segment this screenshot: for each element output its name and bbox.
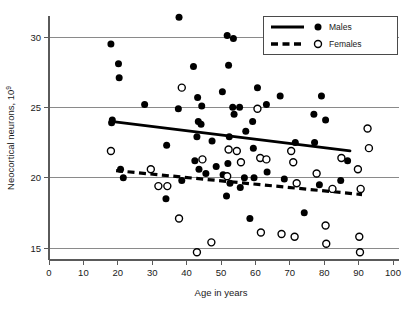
- x-tick-label: 80: [319, 267, 330, 278]
- data-point: [313, 170, 320, 177]
- x-tick-label: 50: [216, 267, 227, 278]
- data-point: [301, 209, 308, 216]
- x-tick-label: 100: [385, 267, 401, 278]
- data-point: [226, 133, 233, 140]
- data-point: [164, 183, 171, 190]
- data-point: [322, 116, 329, 123]
- data-point: [323, 240, 330, 247]
- data-point: [176, 215, 183, 222]
- data-point: [337, 177, 344, 184]
- data-point: [175, 105, 182, 112]
- data-point: [291, 233, 298, 240]
- data-point: [230, 35, 237, 42]
- data-point: [264, 169, 271, 176]
- x-tick-label: 30: [147, 267, 158, 278]
- data-point: [224, 173, 231, 180]
- legend-marker-males: [315, 24, 322, 31]
- data-point: [194, 94, 201, 101]
- data-point: [199, 156, 206, 163]
- x-tick-label: 10: [78, 267, 89, 278]
- x-tick-label: 40: [181, 267, 192, 278]
- data-point: [223, 192, 230, 199]
- data-point: [193, 133, 200, 140]
- data-point: [365, 145, 372, 152]
- x-axis-title: Age in years: [195, 287, 248, 298]
- data-point: [364, 125, 371, 132]
- scatter-plot: 010203040506070809010015202530Age in yea…: [0, 0, 413, 311]
- data-point: [311, 139, 318, 146]
- data-point: [231, 111, 238, 118]
- data-point: [115, 60, 122, 67]
- data-point: [176, 14, 183, 21]
- data-point: [251, 174, 258, 181]
- data-point: [141, 101, 148, 108]
- data-point: [107, 41, 114, 48]
- x-tick-label: 90: [353, 267, 364, 278]
- data-point: [163, 142, 170, 149]
- data-point: [278, 230, 285, 237]
- data-point: [225, 62, 232, 69]
- data-point: [281, 176, 288, 183]
- data-point: [329, 185, 336, 192]
- data-point: [190, 63, 197, 70]
- y-tick-label: 25: [30, 102, 41, 113]
- y-axis-title-text: Neocortical neurons, 10: [5, 90, 16, 190]
- data-point: [288, 147, 295, 154]
- data-point: [242, 128, 249, 135]
- x-tick-label: 70: [285, 267, 296, 278]
- y-tick-label: 30: [30, 32, 41, 43]
- data-point: [357, 185, 364, 192]
- data-point: [209, 138, 216, 145]
- data-point: [236, 104, 243, 111]
- x-tick-label: 0: [46, 267, 51, 278]
- y-axis-title-exponent: 9: [5, 86, 12, 90]
- data-point: [233, 147, 240, 154]
- data-point: [147, 166, 154, 173]
- legend-label-males: Males: [329, 22, 352, 32]
- data-point: [198, 102, 205, 109]
- data-point: [277, 93, 284, 100]
- data-point: [356, 249, 363, 256]
- data-point: [225, 146, 232, 153]
- data-point: [316, 181, 323, 188]
- data-point: [195, 166, 202, 173]
- data-point: [120, 174, 127, 181]
- data-point: [162, 195, 169, 202]
- trendline-females: [116, 171, 362, 195]
- data-point: [310, 111, 317, 118]
- data-point: [354, 166, 361, 173]
- data-point: [116, 74, 123, 81]
- data-point: [191, 157, 198, 164]
- y-axis-title: Neocortical neurons, 109: [5, 86, 17, 190]
- data-point: [249, 118, 256, 125]
- x-tick-label: 20: [113, 267, 124, 278]
- data-point: [219, 88, 226, 95]
- data-point: [229, 104, 236, 111]
- data-point: [224, 32, 231, 39]
- data-point: [254, 105, 261, 112]
- data-point: [356, 233, 363, 240]
- data-point: [155, 183, 162, 190]
- data-point: [322, 222, 329, 229]
- y-tick-label: 20: [30, 172, 41, 183]
- data-point: [254, 84, 261, 91]
- data-point: [241, 174, 248, 181]
- data-point: [208, 239, 215, 246]
- data-point: [237, 184, 244, 191]
- y-axis-ticks: 15202530: [30, 32, 49, 254]
- data-point: [338, 154, 345, 161]
- gridlines: [49, 37, 399, 248]
- legend-marker-females: [315, 41, 322, 48]
- data-point: [257, 229, 264, 236]
- data-point: [246, 215, 253, 222]
- data-point: [178, 84, 185, 91]
- y-tick-label: 15: [30, 243, 41, 254]
- data-point: [318, 93, 325, 100]
- data-point: [290, 159, 297, 166]
- legend-label-females: Females: [329, 39, 362, 49]
- data-point: [213, 163, 220, 170]
- x-axis-ticks: 0102030405060708090100: [46, 260, 401, 278]
- data-point: [107, 147, 114, 154]
- data-point: [224, 160, 231, 167]
- chart-container: 010203040506070809010015202530Age in yea…: [0, 0, 413, 311]
